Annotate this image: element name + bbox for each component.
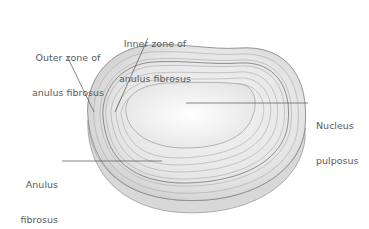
label-outer-zone: Outer zone of anulus fibrosus	[32, 29, 104, 121]
label-anulus-line1: Anulus	[20, 179, 58, 191]
label-anulus-line2: fibrosus	[20, 214, 58, 226]
label-inner-zone-line1: Inner zone of	[119, 38, 191, 50]
label-inner-zone: Inner zone of anulus fibrosus	[119, 15, 191, 107]
label-outer-zone-line1: Outer zone of	[32, 52, 104, 64]
label-anulus-fibrosus: Anulus fibrosus	[20, 156, 58, 229]
label-nucleus-line1: Nucleus	[316, 120, 358, 132]
disc-illustration: Outer zone of anulus fibrosus Inner zone…	[0, 0, 369, 229]
label-inner-zone-line2: anulus fibrosus	[119, 73, 191, 85]
label-nucleus-line2: pulposus	[316, 155, 358, 167]
label-nucleus-pulposus: Nucleus pulposus	[316, 97, 358, 189]
label-outer-zone-line2: anulus fibrosus	[32, 87, 104, 99]
